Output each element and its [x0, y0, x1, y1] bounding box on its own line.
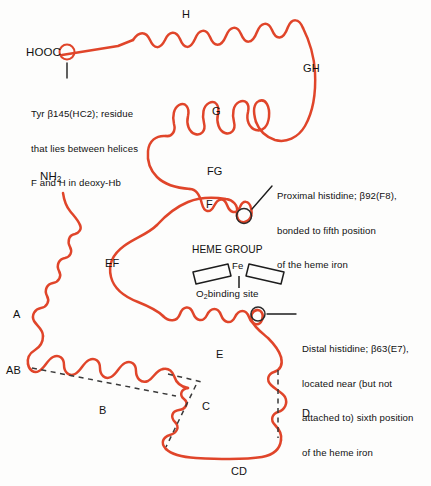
proximal-annotation-line2: bonded to fifth position — [277, 225, 397, 237]
distal-annotation-line3: attached to) sixth position — [302, 412, 414, 424]
oxygen-symbol: O — [196, 288, 204, 299]
proximal-annotation-line1: Proximal histidine; β92(F8), — [277, 190, 397, 202]
heme-group-label: HEME GROUP — [192, 244, 263, 256]
proximal-histidine-annotation: Proximal histidine; β92(F8), bonded to f… — [277, 167, 397, 294]
helix-C-coil — [163, 388, 188, 449]
iron-label: Fe — [232, 260, 243, 271]
heme-plate-left — [193, 264, 231, 284]
helix-E-coil — [163, 307, 263, 324]
c-terminus-label: HOOC — [26, 46, 61, 60]
helix-D-coil — [268, 357, 286, 440]
distal-histidine-annotation: Distal histidine; β63(E7), located near … — [302, 320, 414, 481]
loop-FG — [148, 136, 190, 189]
helix-A-coil — [33, 225, 81, 336]
helix-label-F: F — [206, 198, 213, 211]
figure-canvas: HOOC NH2 H GH G FG F EF E D CD C B AB A … — [0, 0, 431, 486]
helix-label-C: C — [202, 400, 210, 413]
tyr-annotation-line2: that lies between helices — [31, 143, 138, 155]
loop-CD — [166, 440, 281, 459]
proximal-leader-line — [252, 186, 272, 209]
tyr-annotation-line3: F and H in deoxy-Hb — [31, 177, 138, 189]
distal-annotation-line2: located near (but not — [302, 378, 414, 390]
helix-label-EF: EF — [105, 257, 119, 270]
oxygen-binding-site-label: O2binding site — [196, 288, 259, 301]
binding-site-text: binding site — [208, 288, 259, 299]
helix-F-coil — [190, 189, 252, 222]
chain-below-distal — [251, 310, 281, 357]
tyr-annotation-line1: Tyr β145(HC2); residue — [31, 108, 138, 120]
tyr-residue-circle — [60, 45, 75, 60]
distal-annotation-line4: of the heme iron — [302, 447, 414, 459]
helix-label-A: A — [13, 308, 20, 321]
helix-label-FG: FG — [207, 165, 222, 178]
helix-label-CD: CD — [231, 465, 247, 478]
loop-GH — [256, 28, 315, 141]
helix-H-coil — [133, 20, 303, 47]
turn-AB — [28, 336, 43, 364]
helix-B-coil — [28, 356, 163, 382]
helix-label-H: H — [182, 8, 190, 21]
helix-label-B: B — [99, 404, 106, 417]
loop-EF — [110, 225, 163, 316]
tyr-annotation: Tyr β145(HC2); residue that lies between… — [31, 85, 138, 212]
distal-annotation-line1: Distal histidine; β63(E7), — [302, 343, 414, 355]
helix-label-GH: GH — [303, 62, 320, 75]
link-C-to-B — [163, 369, 188, 388]
proximal-annotation-line3: of the heme iron — [277, 259, 397, 271]
helix-label-G: G — [212, 105, 221, 118]
helix-axis-lines-group — [32, 368, 278, 447]
helix-label-AB: AB — [6, 364, 21, 377]
helix-label-E: E — [216, 348, 223, 361]
helix-B-axis — [32, 368, 176, 396]
